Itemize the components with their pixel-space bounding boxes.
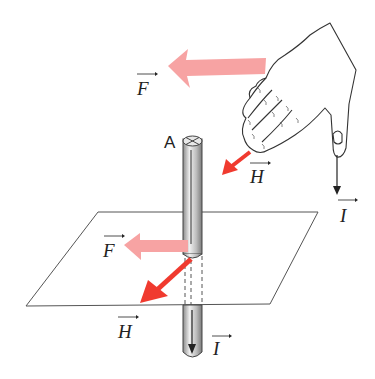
plane — [26, 212, 318, 306]
label-force-top: F — [136, 72, 158, 99]
svg-text:H: H — [117, 321, 133, 342]
label-field-top: H — [249, 161, 271, 187]
svg-text:H: H — [249, 166, 265, 187]
wire-rod-lower — [183, 305, 202, 357]
force-arrow-plane — [124, 233, 188, 260]
diagram-canvas: F H I A F H I — [0, 0, 375, 379]
svg-text:I: I — [339, 205, 348, 226]
label-point-a: A — [164, 133, 176, 152]
wire-rod-upper — [183, 136, 202, 258]
svg-text:F: F — [102, 240, 115, 261]
field-arrow-top — [222, 152, 250, 175]
label-force-plane: F — [102, 234, 125, 261]
svg-text:F: F — [136, 78, 149, 99]
current-arrow-top — [333, 155, 341, 195]
label-field-plane: H — [117, 315, 139, 342]
svg-text:I: I — [212, 338, 221, 359]
force-arrow-top — [168, 49, 266, 88]
label-current-bottom: I — [212, 334, 232, 359]
field-arrow-plane — [140, 259, 191, 303]
label-current-top: I — [338, 198, 358, 226]
right-hand-icon — [242, 23, 356, 157]
